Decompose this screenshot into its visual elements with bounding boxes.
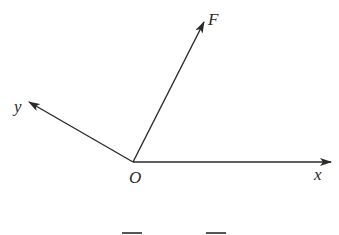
origin-label: O (129, 168, 141, 187)
y-axis-arrow (29, 102, 133, 162)
caption-fragment-right (206, 232, 226, 234)
force-arrow (133, 22, 204, 162)
x-axis-label: x (313, 165, 322, 184)
force-label: F (207, 10, 219, 29)
caption-fragment-left (122, 232, 142, 234)
y-axis-label: y (12, 97, 22, 116)
force-diagram: F y O x (0, 0, 339, 235)
